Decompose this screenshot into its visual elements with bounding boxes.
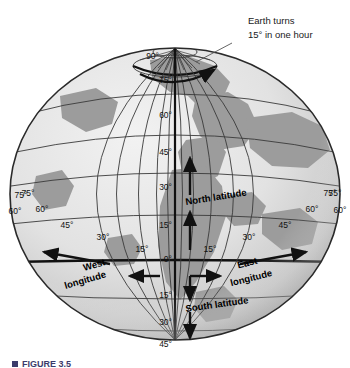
caption-bullet-icon bbox=[12, 361, 18, 367]
tick-limb-right-75: 75° bbox=[329, 188, 342, 198]
annotation-line2: 15° in one hour bbox=[248, 29, 313, 40]
tick-lon-45w: 45° bbox=[61, 220, 74, 230]
tick-lat-45s: 45° bbox=[159, 339, 172, 349]
globe-diagram: Earth turns 15° in one hour 90° 75° 60° … bbox=[0, 0, 350, 368]
tick-lon-60w: 60° bbox=[36, 204, 49, 214]
tick-lon-30w: 30° bbox=[97, 232, 110, 242]
tick-lat-90n: 90° bbox=[146, 51, 159, 61]
tick-lat-15s: 15° bbox=[159, 290, 172, 300]
figure-root: Earth turns 15° in one hour 90° 75° 60° … bbox=[0, 0, 350, 368]
tick-lat-45n: 45° bbox=[159, 147, 172, 157]
tick-limb-right-60: 60° bbox=[334, 205, 347, 215]
sphere-rim-shade bbox=[10, 48, 340, 340]
tick-lat-60n: 60° bbox=[159, 110, 172, 120]
tick-lon-15w: 15° bbox=[136, 244, 149, 254]
figure-caption-label: FIGURE 3.5 bbox=[22, 359, 71, 368]
tick-lat-30n: 30° bbox=[159, 182, 172, 192]
tick-limb-left-75: 75° bbox=[15, 190, 28, 200]
tick-lat-15n: 15° bbox=[159, 220, 172, 230]
tick-limb-left-60: 60° bbox=[9, 206, 22, 216]
tick-lat-75n: 75° bbox=[159, 75, 172, 85]
tick-lat-equator: 0° bbox=[164, 254, 172, 264]
tick-lon-15e: 15° bbox=[204, 244, 217, 254]
tick-lat-30s: 30° bbox=[159, 317, 172, 327]
tick-lon-30e: 30° bbox=[243, 232, 256, 242]
tick-lon-45e: 45° bbox=[279, 220, 292, 230]
annotation-line1: Earth turns bbox=[248, 15, 295, 26]
tick-lon-60e: 60° bbox=[306, 204, 319, 214]
